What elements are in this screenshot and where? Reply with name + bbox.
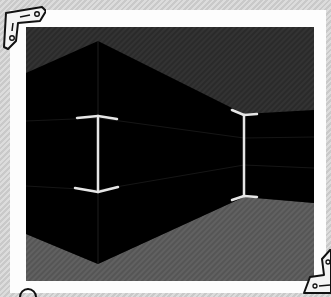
- corner-ring-bottom-left-icon: [18, 286, 38, 297]
- left-wall: [26, 41, 98, 264]
- corner-bracket-top-left-icon: [2, 3, 46, 51]
- corner-bracket-bottom-right-icon: [302, 249, 331, 297]
- game-viewport[interactable]: [26, 27, 314, 281]
- corridor-scene: [26, 27, 314, 281]
- right-wall: [244, 110, 314, 203]
